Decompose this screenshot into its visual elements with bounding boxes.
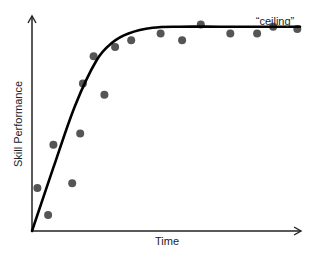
data-point — [100, 91, 108, 99]
ceiling-annotation: “ceiling” — [256, 15, 295, 27]
x-axis-label: Time — [155, 235, 179, 247]
data-point — [226, 30, 234, 38]
fitted-curve — [32, 27, 300, 231]
data-point — [68, 179, 76, 187]
data-point — [178, 36, 186, 44]
data-points — [33, 20, 301, 219]
data-point — [76, 129, 84, 137]
learning-curve-chart: Skill Performance Time “ceiling” — [0, 0, 318, 256]
data-point — [157, 30, 165, 38]
data-point — [33, 184, 41, 192]
data-point — [127, 36, 135, 44]
data-point — [49, 141, 57, 149]
y-axis-label: Skill Performance — [12, 81, 24, 167]
data-point — [44, 211, 52, 219]
data-point — [253, 30, 261, 38]
